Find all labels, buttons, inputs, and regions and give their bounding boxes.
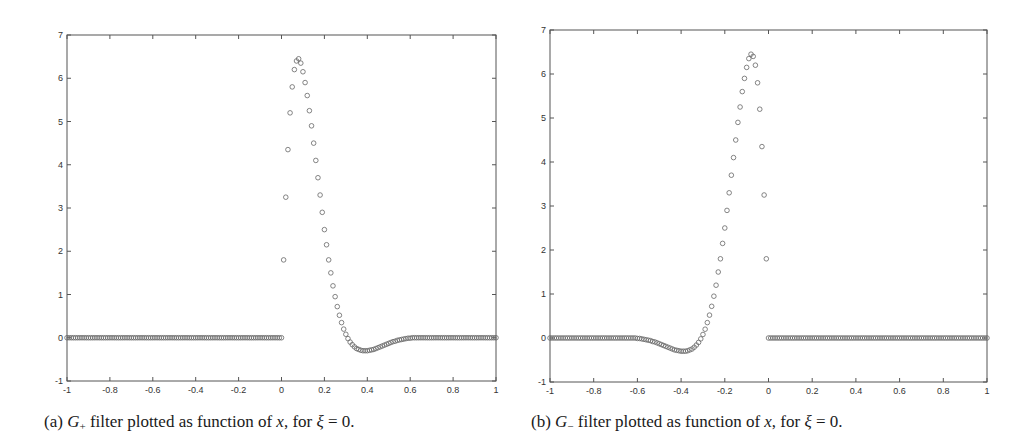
caption-greek: ξ	[316, 412, 323, 431]
svg-text:0.2: 0.2	[318, 385, 331, 395]
x-tick: 0.6	[893, 30, 906, 396]
y-tick: 3	[58, 203, 496, 213]
x-tick: 0	[279, 35, 284, 395]
svg-text:-1: -1	[538, 377, 546, 387]
svg-text:7: 7	[58, 30, 63, 40]
x-tick: 0.8	[937, 30, 950, 396]
svg-text:-0.8: -0.8	[102, 385, 118, 395]
caption-value: 0.	[342, 412, 355, 431]
x-tick: 0.2	[806, 30, 819, 396]
y-tick: 3	[541, 201, 987, 211]
svg-text:0.8: 0.8	[447, 385, 460, 395]
y-tick: 6	[541, 69, 987, 79]
caption-for: , for	[284, 412, 312, 431]
axes-box	[550, 30, 987, 382]
y-tick: 4	[541, 157, 987, 167]
svg-text:4: 4	[541, 157, 546, 167]
svg-text:6: 6	[58, 73, 63, 83]
x-tick: 0.4	[361, 35, 374, 395]
svg-text:5: 5	[541, 113, 546, 123]
svg-text:1: 1	[984, 386, 989, 396]
y-tick: 1	[541, 289, 987, 299]
y-tick: 1	[58, 290, 496, 300]
svg-text:-0.4: -0.4	[673, 386, 689, 396]
caption-subscript: +	[79, 420, 85, 432]
figure-a: -1-0.8-0.6-0.4-0.200.20.40.60.81-1012345…	[0, 0, 517, 441]
svg-text:-0.2: -0.2	[717, 386, 733, 396]
svg-text:4: 4	[58, 160, 63, 170]
data-series	[548, 52, 990, 354]
caption-b: (b) G− filter plotted as function of x, …	[531, 412, 843, 432]
svg-text:1: 1	[58, 290, 63, 300]
caption-subscript: −	[567, 420, 573, 432]
caption-symbol: G	[555, 412, 567, 431]
caption-symbol: G	[67, 412, 79, 431]
svg-text:0.6: 0.6	[404, 385, 417, 395]
y-tick: 4	[58, 160, 496, 170]
svg-text:-0.6: -0.6	[630, 386, 646, 396]
caption-label: (a)	[44, 412, 63, 431]
svg-text:2: 2	[541, 245, 546, 255]
svg-text:-0.2: -0.2	[231, 385, 247, 395]
svg-text:0: 0	[279, 385, 284, 395]
svg-text:5: 5	[58, 117, 63, 127]
caption-var: x	[764, 412, 772, 431]
caption-for: , for	[772, 412, 800, 431]
x-tick: -0.2	[717, 30, 733, 396]
x-tick: 0	[766, 30, 771, 396]
caption-equals: =	[816, 412, 826, 431]
svg-text:0.8: 0.8	[937, 386, 950, 396]
x-tick: -0.6	[145, 35, 161, 395]
caption-var: x	[276, 412, 284, 431]
caption-text: filter plotted as function of	[90, 412, 272, 431]
y-tick: 2	[541, 245, 987, 255]
svg-text:-0.6: -0.6	[145, 385, 161, 395]
svg-text:-0.4: -0.4	[188, 385, 204, 395]
svg-text:0: 0	[766, 386, 771, 396]
x-tick: -0.8	[102, 35, 118, 395]
svg-text:0.4: 0.4	[850, 386, 863, 396]
svg-text:7: 7	[541, 25, 546, 35]
svg-text:0: 0	[541, 333, 546, 343]
y-tick: 2	[58, 246, 496, 256]
figure-b: -1-0.8-0.6-0.4-0.200.20.40.60.81-1012345…	[517, 0, 1034, 441]
caption-greek: ξ	[804, 412, 811, 431]
data-series	[65, 56, 499, 353]
caption-value: 0.	[830, 412, 843, 431]
svg-text:0.2: 0.2	[806, 386, 819, 396]
chart-g-minus: -1-0.8-0.6-0.4-0.200.20.40.60.81-1012345…	[517, 0, 1034, 400]
svg-text:6: 6	[541, 69, 546, 79]
caption-a: (a) G+ filter plotted as function of x, …	[44, 412, 355, 432]
x-tick: -0.4	[188, 35, 204, 395]
axes-box	[67, 35, 496, 381]
svg-text:3: 3	[541, 201, 546, 211]
x-tick: -0.8	[586, 30, 602, 396]
svg-text:1: 1	[541, 289, 546, 299]
svg-text:-1: -1	[63, 385, 71, 395]
svg-text:0.4: 0.4	[361, 385, 374, 395]
svg-text:-0.8: -0.8	[586, 386, 602, 396]
svg-text:3: 3	[58, 203, 63, 213]
chart-g-plus: -1-0.8-0.6-0.4-0.200.20.40.60.81-1012345…	[0, 0, 517, 400]
y-tick: 0	[541, 333, 987, 343]
svg-text:-1: -1	[546, 386, 554, 396]
svg-text:2: 2	[58, 246, 63, 256]
caption-text: filter plotted as function of	[578, 412, 760, 431]
x-tick: 0.2	[318, 35, 331, 395]
x-tick: 0.8	[447, 35, 460, 395]
x-tick: 0.4	[850, 30, 863, 396]
x-tick: -0.2	[231, 35, 247, 395]
caption-label: (b)	[531, 412, 551, 431]
y-tick: 5	[58, 117, 496, 127]
svg-text:-1: -1	[55, 376, 63, 386]
x-tick: -0.4	[673, 30, 689, 396]
svg-text:1: 1	[493, 385, 498, 395]
caption-equals: =	[328, 412, 338, 431]
y-tick: 5	[541, 113, 987, 123]
svg-text:0: 0	[58, 333, 63, 343]
svg-text:0.6: 0.6	[893, 386, 906, 396]
y-tick: 6	[58, 73, 496, 83]
